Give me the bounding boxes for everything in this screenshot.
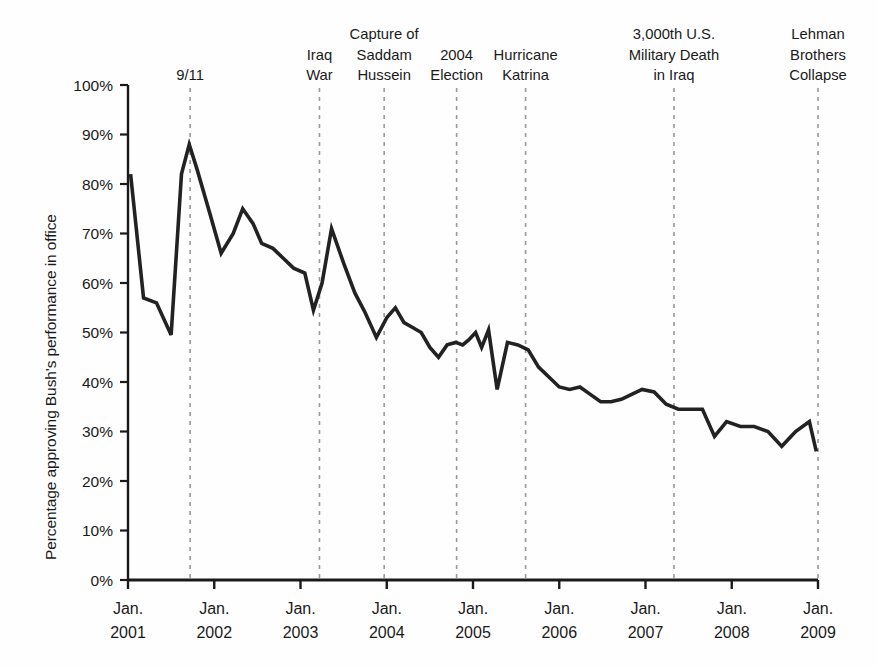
annotation-label-election-2004: Election	[430, 67, 483, 83]
x-axis-tick-label: 2006	[541, 624, 577, 641]
x-axis-tick-label: 2004	[369, 624, 405, 641]
x-axis-tick-label: 2007	[628, 624, 664, 641]
x-axis-tick-label: Jan.	[717, 600, 747, 617]
approval-rating-chart: Percentage approving Bush's performance …	[0, 0, 877, 667]
x-axis-tick-label: 2008	[714, 624, 750, 641]
annotation-label-lehman-collapse: Collapse	[789, 67, 847, 83]
annotation-label-iraq-war: War	[306, 67, 333, 83]
x-axis-tick-label: Jan.	[803, 600, 833, 617]
chart-plot-area: 9/11IraqWarCapture ofSaddamHussein2004El…	[0, 0, 877, 667]
annotation-label-lehman-collapse: Brothers	[790, 47, 846, 63]
y-axis-tick-label: 40%	[82, 374, 113, 391]
annotation-labels: 9/11IraqWarCapture ofSaddamHussein2004El…	[176, 26, 847, 83]
y-axis-tick-label: 80%	[82, 176, 113, 193]
y-axis-tick-label: 90%	[82, 126, 113, 143]
annotation-label-capture-saddam: Capture of	[350, 26, 420, 42]
x-axis-tick-label: Jan.	[285, 600, 315, 617]
x-axis-tick-label: Jan.	[113, 600, 143, 617]
data-series	[131, 144, 817, 451]
x-axis-tick-label: 2005	[455, 624, 491, 641]
y-axis-tick-label: 70%	[82, 225, 113, 242]
x-axis-tick-label: 2001	[110, 624, 146, 641]
y-axis-tick-label: 30%	[82, 423, 113, 440]
x-axis-tick-label: Jan.	[544, 600, 574, 617]
y-axis-tick-label: 20%	[82, 473, 113, 490]
y-axis-tick-label: 100%	[73, 77, 113, 94]
annotation-label-lehman-collapse: Lehman	[791, 26, 844, 42]
x-axis-tick-label: Jan.	[372, 600, 402, 617]
x-axis-tick-label: Jan.	[199, 600, 229, 617]
x-axis-tick-label: 2009	[800, 624, 836, 641]
annotation-label-capture-saddam: Saddam	[357, 47, 412, 63]
annotation-label-capture-saddam: Hussein	[357, 67, 410, 83]
y-axis-tick-label: 60%	[82, 275, 113, 292]
series-line	[131, 144, 817, 451]
annotation-label-military-death: Military Death	[629, 47, 719, 63]
annotation-label-hurricane-katrina: Hurricane	[494, 47, 558, 63]
y-axis-tick-label: 10%	[82, 522, 113, 539]
annotation-label-military-death: in Iraq	[653, 67, 694, 83]
x-axis-tick-label: 2003	[283, 624, 319, 641]
y-axis-tick-label: 50%	[82, 324, 113, 341]
x-axis-tick-label: Jan.	[630, 600, 660, 617]
x-axis-tick-label: 2002	[196, 624, 232, 641]
annotation-label-nine-eleven: 9/11	[176, 67, 204, 83]
annotation-label-hurricane-katrina: Katrina	[502, 67, 550, 83]
annotation-label-election-2004: 2004	[440, 47, 473, 63]
annotation-label-military-death: 3,000th U.S.	[633, 26, 715, 42]
y-axis-tick-label: 0%	[91, 572, 114, 589]
y-axis: 0%10%20%30%40%50%60%70%80%90%100%	[73, 77, 128, 589]
x-axis: Jan.2001Jan.2002Jan.2003Jan.2004Jan.2005…	[110, 580, 836, 641]
annotation-label-iraq-war: Iraq	[307, 47, 333, 63]
x-axis-tick-label: Jan.	[458, 600, 488, 617]
annotation-guide-lines	[190, 88, 818, 580]
